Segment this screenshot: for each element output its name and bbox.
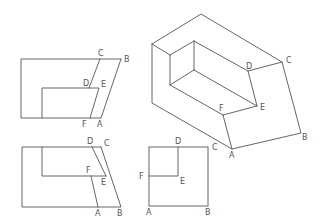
front-label-d: D bbox=[83, 79, 89, 88]
front-label-e: E bbox=[101, 80, 106, 89]
iso-edge-f-a bbox=[223, 115, 232, 149]
iso-edge-e-f bbox=[223, 106, 257, 115]
technical-drawing: C B D E F A D C F E A B D C F E A B bbox=[0, 0, 325, 217]
iso-inner-floor-edge bbox=[170, 70, 194, 85]
iso-label-d: D bbox=[246, 62, 252, 71]
side-inner-step bbox=[149, 147, 178, 176]
iso-edge-c-d bbox=[248, 62, 282, 71]
top-label-d: D bbox=[87, 137, 93, 146]
iso-label-a: A bbox=[229, 151, 235, 160]
top-label-c: C bbox=[104, 139, 110, 148]
side-label-e: E bbox=[180, 177, 185, 186]
iso-inner-top bbox=[170, 41, 194, 55]
front-view: C B D E F A bbox=[21, 49, 130, 129]
iso-label-c: C bbox=[286, 56, 292, 65]
iso-label-b: B bbox=[302, 133, 308, 142]
top-label-e: E bbox=[101, 178, 106, 187]
iso-label-e: E bbox=[260, 103, 265, 112]
iso-inner-back-top bbox=[194, 41, 248, 71]
side-label-c: C bbox=[212, 143, 218, 152]
top-inner-step bbox=[42, 147, 106, 176]
top-label-a: A bbox=[95, 209, 101, 217]
iso-edge-d-e bbox=[248, 71, 257, 106]
iso-label-f: F bbox=[219, 104, 224, 113]
front-label-a: A bbox=[97, 120, 103, 129]
side-label-a: A bbox=[146, 208, 152, 217]
top-edge-d-e bbox=[92, 147, 106, 176]
front-label-c: C bbox=[98, 49, 104, 58]
side-label-f: F bbox=[139, 172, 144, 181]
iso-inner-front-bottom bbox=[170, 85, 223, 115]
top-edge-f-a bbox=[91, 176, 98, 207]
iso-inner-back-bottom bbox=[194, 70, 257, 106]
iso-edge-outer-to-inner bbox=[152, 44, 170, 55]
top-view: D C F E A B bbox=[22, 137, 123, 217]
front-inner-step bbox=[42, 88, 99, 118]
front-edge-c-d bbox=[89, 59, 100, 88]
front-label-f: F bbox=[82, 120, 87, 129]
front-label-b: B bbox=[124, 55, 130, 64]
side-outline bbox=[149, 147, 208, 206]
side-label-d: D bbox=[175, 137, 181, 146]
top-label-f: F bbox=[86, 166, 91, 175]
side-label-b: B bbox=[205, 208, 211, 217]
top-label-b: B bbox=[117, 209, 123, 217]
side-view: D C F E A B bbox=[139, 137, 218, 217]
top-outline bbox=[22, 147, 121, 207]
